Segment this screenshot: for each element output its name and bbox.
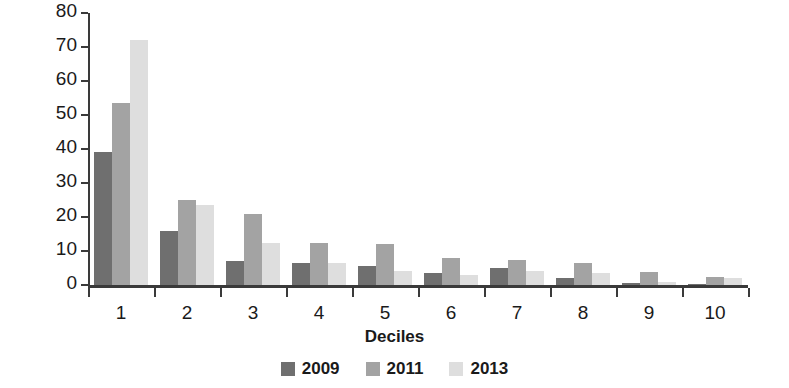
x-axis-tick [88,288,90,297]
x-axis-tick-label: 6 [446,301,457,325]
x-axis-tick [286,288,288,297]
y-axis-tick: 80 [81,12,88,14]
bar [526,271,544,285]
x-axis-tick-label: 4 [314,301,325,325]
x-axis-tick-label: 9 [644,301,655,325]
y-axis-tick-label: 20 [37,204,77,226]
y-axis-tick: 30 [81,182,88,184]
bar-group [292,13,346,285]
y-axis-tick-label: 10 [37,238,77,260]
x-axis-tick [550,288,552,297]
legend-label: 2009 [302,360,340,378]
x-axis-tick-label: 1 [116,301,127,325]
bar [490,268,508,285]
bar-group [94,13,148,285]
y-axis-tick-label: 50 [37,102,77,124]
legend-label: 2011 [387,360,424,378]
bar [178,200,196,285]
bar [262,243,280,286]
x-axis-tick-label: 2 [182,301,193,325]
bar [94,152,112,285]
bar [196,205,214,285]
bar [460,275,478,285]
x-axis-tick [748,288,750,297]
x-axis-title: Deciles [0,327,789,347]
y-axis-tick: 50 [81,114,88,116]
bar-group [358,13,412,285]
plot-area: 01020304050607080 12345678910 [88,13,748,285]
bar [706,277,724,286]
bar-group [556,13,610,285]
x-axis-tick-label: 8 [578,301,589,325]
bar-group [424,13,478,285]
bar [292,263,310,285]
y-axis-tick-label: 30 [37,170,77,192]
bar-group [622,13,676,285]
x-axis-tick [682,288,684,297]
x-axis-tick [484,288,486,297]
y-axis-tick-label: 80 [37,0,77,22]
bar [112,103,130,285]
legend-item: 2013 [449,360,508,378]
y-axis-tick-label: 40 [37,136,77,158]
legend-swatch-icon [366,362,380,376]
bar [688,284,706,285]
y-axis-tick: 20 [81,216,88,218]
bar [394,271,412,285]
y-axis-tick: 40 [81,148,88,150]
bar [508,260,526,286]
bar [574,263,592,285]
bar [310,243,328,286]
y-axis-tick-label: 60 [37,68,77,90]
bar [226,261,244,285]
bar-group [688,13,742,285]
bar [358,266,376,285]
legend-swatch-icon [281,362,295,376]
x-axis-tick-label: 3 [248,301,259,325]
bar [622,283,640,285]
chart-legend: 200920112013 [0,360,789,378]
bar [556,278,574,285]
x-axis-tick [418,288,420,297]
y-axis-tick: 0 [81,284,88,286]
y-axis-tick: 70 [81,46,88,48]
bars-layer [88,13,748,285]
x-axis-tick [154,288,156,297]
legend-label: 2013 [470,360,508,378]
x-axis-tick-label: 7 [512,301,523,325]
legend-item: 2009 [281,360,340,378]
y-axis-tick-label: 70 [37,34,77,56]
bar-group [160,13,214,285]
x-axis-tick-label: 5 [380,301,391,325]
y-axis-tick: 10 [81,250,88,252]
x-axis-tick [220,288,222,297]
legend-item: 2011 [366,360,424,378]
bar [592,273,610,285]
legend-swatch-icon [449,362,463,376]
bar [658,282,676,285]
bar [328,263,346,285]
bar [244,214,262,285]
bar [160,231,178,285]
bar [376,244,394,285]
x-axis-tick [352,288,354,297]
bar-chart: Coverage (%) 01020304050607080 123456789… [0,0,789,388]
bar-group [226,13,280,285]
y-axis-tick: 60 [81,80,88,82]
y-axis-tick-label: 0 [37,272,77,294]
x-axis-tick [616,288,618,297]
bar [424,273,442,285]
bar [442,258,460,285]
bar [724,278,742,285]
x-axis-tick-label: 10 [704,301,725,325]
bar [640,272,658,285]
bar [130,40,148,285]
bar-group [490,13,544,285]
